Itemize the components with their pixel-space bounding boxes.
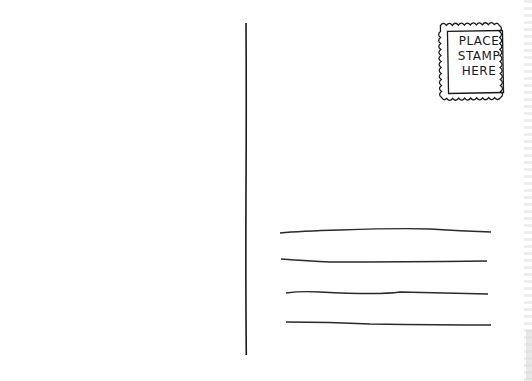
address-line-3 (286, 292, 488, 294)
stamp-label-line-3: HERE (448, 64, 510, 79)
stamp-label-line-2: STAMP (448, 49, 510, 64)
address-line-4 (286, 322, 491, 325)
postcard-back: PLACE STAMP HERE (0, 0, 532, 381)
stamp-label-line-1: PLACE (448, 34, 510, 49)
address-line-2 (281, 259, 487, 262)
perforated-edge (524, 0, 532, 381)
address-line-1 (280, 229, 491, 233)
edge-shadow (526, 330, 532, 380)
stamp-label: PLACE STAMP HERE (448, 34, 510, 79)
